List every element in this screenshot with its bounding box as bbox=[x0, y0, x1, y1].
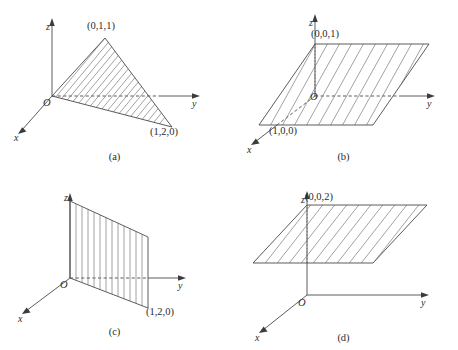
z-axis-arrow-c bbox=[67, 193, 72, 201]
axis-label-y-b: y bbox=[427, 99, 431, 109]
panel-d-hatching bbox=[247, 197, 437, 271]
figure-panel-a: z y x O (0,1,1) (1,2,0) (a) bbox=[0, 0, 229, 175]
panel-caption-d: (d) bbox=[229, 333, 458, 344]
panel-b-drawing bbox=[229, 0, 458, 175]
axis-label-y-c: y bbox=[178, 281, 182, 291]
axis-label-z-a: z bbox=[46, 22, 50, 32]
point-label-a-1: (0,1,1) bbox=[87, 21, 115, 32]
x-axis-arrow-a bbox=[18, 127, 26, 134]
panel-d-drawing bbox=[229, 175, 458, 350]
panel-caption-a: (a) bbox=[0, 152, 229, 163]
axis-label-y-a: y bbox=[192, 99, 196, 109]
panel-c-hatching bbox=[76, 185, 142, 325]
figure-panel-b: z y x O (0,0,1) (1,0,0) (b) bbox=[229, 0, 458, 175]
axis-label-x-c: x bbox=[18, 314, 22, 324]
axis-label-z-c: z bbox=[64, 193, 68, 203]
panel-caption-c: (c) bbox=[0, 327, 229, 338]
point-label-b-1: (0,0,1) bbox=[311, 29, 339, 40]
panel-c-drawing bbox=[0, 175, 229, 350]
axis-label-z-b: z bbox=[309, 18, 313, 28]
figure-panel-d: z y x O (0,0,2) (d) bbox=[229, 175, 458, 350]
origin-label-a: O bbox=[43, 98, 51, 109]
panel-b-hatching bbox=[253, 34, 453, 135]
panel-b-parallelogram bbox=[259, 44, 429, 125]
point-label-b-2: (1,0,0) bbox=[269, 126, 297, 137]
point-label-a-2: (1,2,0) bbox=[150, 127, 178, 138]
origin-label-c: O bbox=[60, 280, 68, 291]
panel-caption-b: (b) bbox=[229, 152, 458, 163]
origin-label-b: O bbox=[310, 92, 318, 103]
figure-panel-c: z y x O (1,2,0) (c) bbox=[0, 175, 229, 350]
point-label-d-1: (0,0,2) bbox=[305, 192, 333, 203]
axis-label-x-a: x bbox=[14, 133, 18, 143]
origin-label-d: O bbox=[298, 298, 306, 309]
z-axis-arrow-a bbox=[49, 18, 54, 26]
figure-sheet: z y x O (0,1,1) (1,2,0) (a) bbox=[0, 0, 458, 350]
z-axis-arrow-b bbox=[312, 14, 317, 22]
point-label-c-1: (1,2,0) bbox=[146, 307, 174, 318]
panel-a-hatching bbox=[20, 20, 246, 140]
axis-label-y-d: y bbox=[421, 298, 425, 308]
